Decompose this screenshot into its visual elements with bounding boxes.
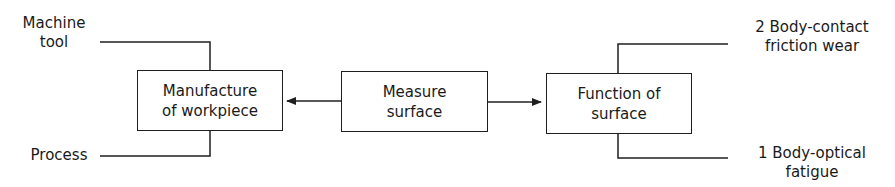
function-box-line2: surface (591, 104, 646, 124)
body-optical-label: 1 Body-optical fatigue (738, 144, 886, 182)
diagram-canvas: Machine tool Process Manufacture of work… (0, 0, 895, 187)
function-of-surface-box: Function of surface (546, 73, 692, 134)
machine-tool-label: Machine tool (16, 14, 92, 52)
function-box-line1: Function of (577, 84, 660, 104)
process-label: Process (24, 146, 94, 165)
measure-surface-box: Measure surface (341, 71, 488, 132)
manufacture-of-workpiece-box: Manufacture of workpiece (137, 70, 283, 131)
manufacture-box-line2: of workpiece (162, 101, 258, 121)
measure-box-line1: Measure (383, 82, 447, 102)
body-contact-connector (618, 44, 728, 73)
manufacture-box-line1: Manufacture (163, 81, 257, 101)
body-contact-label: 2 Body-contact friction wear (738, 18, 886, 56)
body-optical-connector (618, 133, 728, 158)
process-line1: Process (24, 146, 94, 165)
measure-box-line2: surface (387, 102, 442, 122)
body-contact-line2: friction wear (738, 37, 886, 56)
machine-tool-connector (100, 42, 210, 70)
machine-tool-line2: tool (16, 33, 92, 52)
body-optical-line2: fatigue (738, 163, 886, 182)
process-connector (100, 130, 210, 156)
machine-tool-line1: Machine (16, 14, 92, 33)
body-contact-line1: 2 Body-contact (738, 18, 886, 37)
body-optical-line1: 1 Body-optical (738, 144, 886, 163)
